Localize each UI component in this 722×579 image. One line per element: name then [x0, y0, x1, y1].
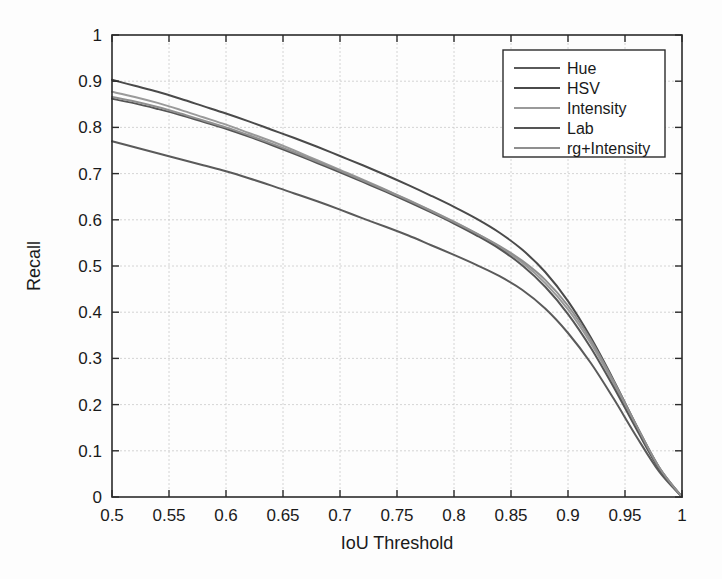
x-tick-label: 0.65	[266, 506, 299, 525]
y-tick-labels: 00.10.20.30.40.50.60.70.80.91	[78, 26, 102, 507]
y-tick-label: 0.6	[78, 211, 102, 230]
y-tick-label: 0.3	[78, 349, 102, 368]
x-tick-label: 0.55	[152, 506, 185, 525]
chart-canvas: 0.50.550.60.650.70.750.80.850.90.951 00.…	[0, 0, 722, 579]
y-tick-label: 0.8	[78, 118, 102, 137]
y-axis-title: Recall	[24, 241, 44, 291]
legend: HueHSVIntensityLabrg+Intensity	[503, 50, 665, 157]
x-tick-labels: 0.50.550.60.650.70.750.80.850.90.951	[100, 506, 687, 525]
series-line-lab	[112, 99, 682, 497]
x-tick-label: 0.6	[214, 506, 238, 525]
x-tick-label: 0.85	[494, 506, 527, 525]
y-tick-label: 0.9	[78, 72, 102, 91]
x-axis-title: IoU Threshold	[341, 533, 454, 553]
x-tick-label: 0.5	[100, 506, 124, 525]
y-tick-label: 0.7	[78, 165, 102, 184]
x-tick-label: 1	[677, 506, 686, 525]
legend-label-hue: Hue	[567, 60, 596, 77]
y-tick-label: 0.5	[78, 257, 102, 276]
y-tick-label: 1	[93, 26, 102, 45]
legend-label-rg-intensity: rg+Intensity	[567, 140, 650, 157]
y-tick-label: 0.2	[78, 396, 102, 415]
recall-vs-iou-figure: 0.50.550.60.650.70.750.80.850.90.951 00.…	[0, 0, 722, 579]
x-tick-label: 0.75	[380, 506, 413, 525]
x-tick-label: 0.8	[442, 506, 466, 525]
y-tick-label: 0.1	[78, 442, 102, 461]
y-tick-label: 0.4	[78, 303, 102, 322]
x-tick-label: 0.7	[328, 506, 352, 525]
x-tick-label: 0.95	[608, 506, 641, 525]
legend-label-lab: Lab	[567, 120, 594, 137]
x-tick-label: 0.9	[556, 506, 580, 525]
y-tick-label: 0	[93, 488, 102, 507]
legend-label-hsv: HSV	[567, 80, 600, 97]
legend-label-intensity: Intensity	[567, 100, 627, 117]
